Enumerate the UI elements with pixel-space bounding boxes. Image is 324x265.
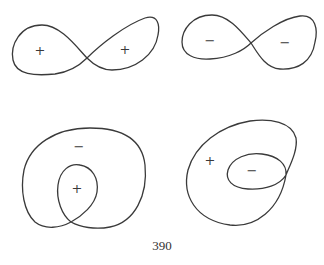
diagram-canvas: + + − − − + + − <box>0 0 324 265</box>
page-number: 390 <box>0 238 324 254</box>
inner-loop-negative-curve <box>187 120 297 225</box>
sign-left: + <box>35 43 46 58</box>
inner-loop-negative: + − <box>187 120 297 225</box>
sign-inner: + <box>72 181 83 196</box>
sign-right: − <box>280 35 291 50</box>
sign-outer: + <box>205 153 216 168</box>
figure-eight-negative-curve <box>182 15 316 69</box>
sign-outer: − <box>74 139 85 154</box>
inner-loop-positive: − + <box>22 128 145 228</box>
sign-inner: − <box>247 163 258 178</box>
sign-right: + <box>120 42 131 57</box>
sign-left: − <box>205 33 216 48</box>
figure-eight-positive: + + <box>12 17 158 75</box>
figure-eight-negative: − − <box>182 15 316 69</box>
